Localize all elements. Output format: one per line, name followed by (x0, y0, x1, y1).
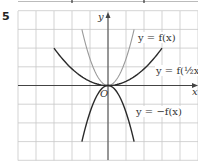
y-axis-label: y (97, 11, 105, 22)
previous-figure-edge (18, 0, 198, 3)
origin-label: O (99, 88, 109, 99)
graph-figure (0, 0, 198, 163)
label-f: y = f(x) (137, 32, 177, 43)
y-axis-arrow-icon (106, 12, 111, 18)
label-neg-f: y = −f(x) (135, 106, 183, 117)
question-number: 5 (2, 10, 10, 23)
label-f-half: y = f(½x) (155, 65, 198, 76)
x-axis-label: x (191, 86, 198, 97)
